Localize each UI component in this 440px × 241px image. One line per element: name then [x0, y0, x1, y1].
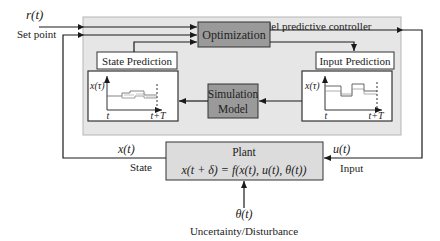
svg-text:x(τ): x(τ) — [89, 80, 105, 92]
disturbance-label: Uncertainty/Disturbance — [190, 225, 298, 237]
svg-text:t+T: t+T — [150, 110, 167, 121]
simulation-model-block: Simulation Model — [208, 84, 259, 118]
svg-text:State Prediction: State Prediction — [102, 55, 172, 67]
svg-text:t+T: t+T — [368, 110, 385, 121]
svg-text:Plant: Plant — [232, 146, 256, 158]
reference-signal: r(t) — [26, 7, 43, 22]
mpc-diagram: Model predictive controller Optimization… — [0, 0, 440, 241]
svg-text:Simulation: Simulation — [208, 88, 259, 100]
svg-text:Optimization: Optimization — [202, 28, 265, 42]
input-signal: u(t) — [333, 142, 350, 156]
svg-text:Input Prediction: Input Prediction — [319, 55, 391, 67]
input-label: Input — [340, 162, 363, 174]
disturbance-signal: θ(t) — [235, 207, 252, 221]
svg-text:x(τ): x(τ) — [304, 80, 320, 92]
svg-text:x(t + δ) = f(x(t), u(t), θ(t)): x(t + δ) = f(x(t), u(t), θ(t)) — [181, 163, 307, 177]
plant-block: Plant x(t + δ) = f(x(t), u(t), θ(t)) — [166, 142, 323, 180]
svg-text:Model: Model — [218, 103, 248, 115]
svg-text:t: t — [325, 110, 328, 121]
state-label: State — [130, 161, 152, 173]
svg-text:t: t — [107, 110, 110, 121]
set-point-label: Set point — [17, 28, 56, 40]
input-prediction-panel: Input Prediction x(τ) t t+T — [302, 52, 394, 121]
optimization-block: Optimization — [198, 22, 270, 47]
state-prediction-panel: State Prediction x(τ) t t+T — [88, 52, 178, 121]
state-signal: x(t) — [117, 142, 135, 156]
